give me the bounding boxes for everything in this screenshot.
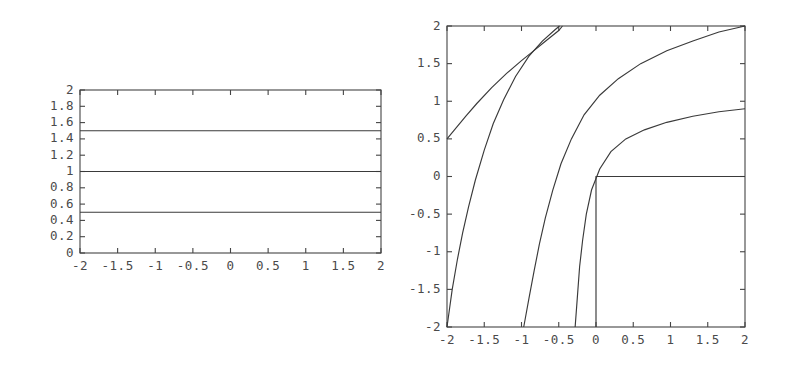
left-chart-svg: 00.20.40.60.811.21.41.61.82 -2-1.5-1-0.5… (0, 0, 400, 371)
right-x-tick-labels: -2-1.5-1-0.500.511.52 (439, 332, 749, 347)
right-series-contour-a (447, 26, 560, 327)
right-y-tick-label: 0.5 (417, 130, 441, 145)
right-series-contour-d (575, 109, 745, 327)
right-y-tick-label: -0.5 (409, 206, 441, 221)
left-y-tick-label: 1.6 (50, 114, 74, 129)
left-y-tick-label: 0.4 (50, 212, 74, 227)
right-y-tick-label: 1.5 (417, 55, 441, 70)
right-x-tick-label: 0 (592, 332, 600, 347)
left-y-tick-label: 1.8 (50, 98, 74, 113)
left-chart-panel: 00.20.40.60.811.21.41.61.82 -2-1.5-1-0.5… (0, 0, 400, 371)
left-x-tick-label: -2 (72, 258, 88, 273)
left-data-lines (80, 131, 381, 213)
right-x-tick-label: -1 (513, 332, 529, 347)
left-x-tick-label: 1.5 (331, 258, 355, 273)
left-x-tick-label: 0.5 (256, 258, 280, 273)
left-x-tick-label: 0 (226, 258, 234, 273)
left-y-tick-label: 1.2 (50, 147, 74, 162)
right-series-contour-b (447, 26, 562, 139)
left-y-tick-labels: 00.20.40.60.811.21.41.61.82 (50, 82, 74, 260)
left-x-tick-label: 1 (302, 258, 310, 273)
right-y-tick-label: 2 (433, 18, 441, 33)
left-y-tick-label: 2 (66, 82, 74, 97)
right-chart-svg: -2-1.5-1-0.500.511.52 -2-1.5-1-0.500.511… (400, 0, 786, 371)
right-y-tick-label: 0 (433, 168, 441, 183)
left-x-tick-label: -0.5 (177, 258, 209, 273)
right-y-tick-label: -1 (425, 243, 441, 258)
right-x-tick-label: 1.5 (696, 332, 720, 347)
right-y-tick-label: 1 (433, 93, 441, 108)
left-x-tick-label: 2 (377, 258, 385, 273)
left-x-tick-label: -1.5 (102, 258, 134, 273)
right-x-tick-label: -1.5 (468, 332, 500, 347)
left-x-tick-labels: -2-1.5-1-0.500.511.52 (72, 258, 385, 273)
right-data-lines (447, 26, 745, 327)
right-x-tick-label: -2 (439, 332, 455, 347)
right-y-tick-label: -1.5 (409, 281, 441, 296)
right-chart-panel: -2-1.5-1-0.500.511.52 -2-1.5-1-0.500.511… (400, 0, 786, 371)
left-y-tick-label: 1 (66, 163, 74, 178)
right-x-tick-label: 1 (666, 332, 674, 347)
left-y-tick-label: 1.4 (50, 130, 74, 145)
left-y-tick-label: 0.6 (50, 196, 74, 211)
right-series-contour-corner (596, 177, 745, 328)
right-y-tick-labels: -2-1.5-1-0.500.511.52 (409, 18, 441, 334)
left-x-tick-label: -1 (147, 258, 163, 273)
right-x-tick-label: 2 (741, 332, 749, 347)
right-x-tick-label: 0.5 (621, 332, 645, 347)
left-y-tick-label: 0.2 (50, 228, 74, 243)
left-y-tick-label: 0.8 (50, 179, 74, 194)
figure-canvas: 00.20.40.60.811.21.41.61.82 -2-1.5-1-0.5… (0, 0, 786, 371)
right-x-tick-label: -0.5 (543, 332, 575, 347)
